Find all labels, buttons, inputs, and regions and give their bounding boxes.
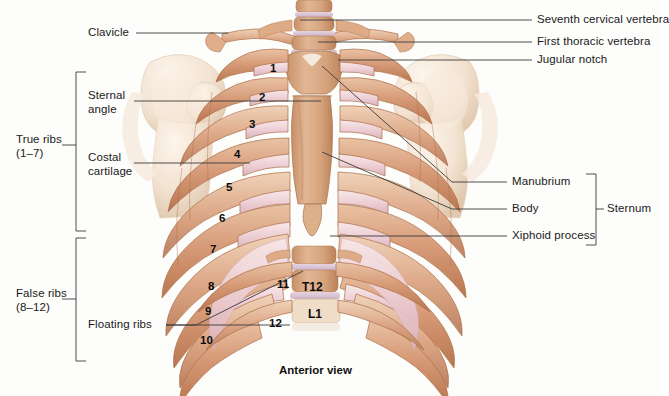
label-sternal-angle-line2: angle [88, 103, 117, 117]
label-seventh-cervical-vertebra: Seventh cervical vertebra [537, 13, 669, 27]
rib-number-8: 8 [208, 280, 214, 292]
label-false-ribs-line2: (8–12) [16, 301, 50, 315]
rib-number-7: 7 [210, 243, 216, 255]
vertebra-label-t12: T12 [302, 280, 323, 294]
label-sternum: Sternum [607, 202, 651, 216]
label-false-ribs-line1: False ribs [16, 287, 67, 301]
label-jugular-notch: Jugular notch [537, 53, 607, 67]
label-clavicle: Clavicle [88, 26, 129, 40]
label-costal-cartilage-line2: cartilage [88, 165, 132, 179]
rib-number-9: 9 [205, 305, 211, 317]
vertebra-label-l1: L1 [308, 307, 322, 321]
label-manubrium: Manubrium [512, 175, 570, 189]
figure-caption: Anterior view [279, 364, 352, 376]
label-floating-ribs: Floating ribs [88, 318, 152, 332]
rib-number-3: 3 [249, 118, 255, 130]
rib-number-6: 6 [219, 212, 225, 224]
true-ribs-bracket [62, 72, 86, 231]
label-true-ribs-line2: (1–7) [16, 147, 43, 161]
label-sternal-angle-line1: Sternal [88, 89, 125, 103]
label-xiphoid-process: Xiphoid process [512, 229, 595, 243]
rib-number-10: 10 [200, 334, 213, 346]
label-body: Body [512, 202, 539, 216]
rib-number-1: 1 [270, 62, 276, 74]
label-true-ribs-line1: True ribs [16, 133, 62, 147]
rib-number-2: 2 [259, 91, 265, 103]
rib-number-4: 4 [234, 148, 240, 160]
rib-number-12: 12 [269, 317, 282, 329]
label-first-thoracic-vertebra: First thoracic vertebra [537, 35, 651, 49]
rib-number-11: 11 [277, 278, 289, 290]
body-leader-line [322, 152, 507, 209]
rib-number-5: 5 [226, 181, 232, 193]
label-costal-cartilage-line1: Costal [88, 151, 121, 165]
